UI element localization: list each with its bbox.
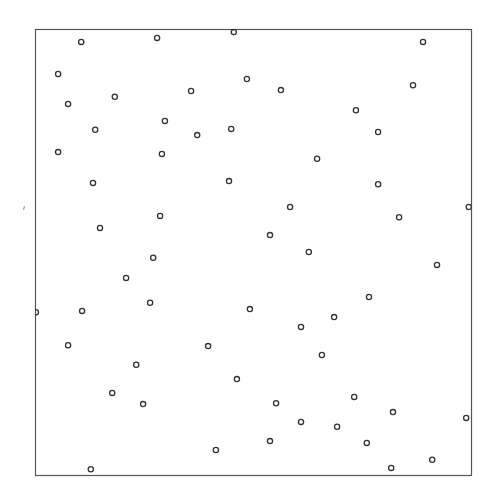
data-point — [231, 29, 236, 34]
data-point — [66, 343, 71, 348]
data-point — [158, 213, 163, 218]
data-point — [56, 71, 61, 76]
data-point — [298, 419, 303, 424]
plot-frame-border — [36, 30, 472, 476]
data-point — [97, 225, 102, 230]
data-point — [162, 118, 167, 123]
data-points — [33, 29, 471, 471]
data-point — [397, 215, 402, 220]
scatter-plot-canvas — [0, 0, 497, 502]
data-point — [464, 415, 469, 420]
data-point — [353, 108, 358, 113]
data-point — [244, 76, 249, 81]
data-point — [267, 439, 272, 444]
data-point — [389, 465, 394, 470]
data-point — [366, 294, 371, 299]
data-point — [274, 401, 279, 406]
data-point — [66, 101, 71, 106]
data-point — [376, 182, 381, 187]
data-point — [141, 402, 146, 407]
data-point — [306, 249, 311, 254]
data-point — [90, 180, 95, 185]
data-point — [151, 255, 156, 260]
data-point — [159, 151, 164, 156]
data-point — [80, 308, 85, 313]
data-point — [315, 156, 320, 161]
data-point — [332, 315, 337, 320]
data-point — [267, 233, 272, 238]
data-point — [420, 39, 425, 44]
data-point — [148, 300, 153, 305]
data-point — [124, 275, 129, 280]
data-point — [466, 204, 471, 209]
data-point — [430, 457, 435, 462]
data-point — [195, 133, 200, 138]
data-point — [229, 126, 234, 131]
data-point — [364, 440, 369, 445]
data-point — [226, 179, 231, 184]
data-point — [234, 377, 239, 382]
data-point — [278, 88, 283, 93]
data-point — [155, 35, 160, 40]
stray-mark — [24, 206, 25, 210]
data-point — [134, 362, 139, 367]
data-point — [247, 307, 252, 312]
data-point — [352, 394, 357, 399]
data-point — [434, 262, 439, 267]
data-point — [56, 150, 61, 155]
data-point — [213, 447, 218, 452]
annotations — [24, 206, 25, 210]
data-point — [298, 324, 303, 329]
data-point — [189, 88, 194, 93]
data-point — [110, 390, 115, 395]
data-point — [112, 94, 117, 99]
plot-frame — [36, 30, 472, 476]
data-point — [390, 410, 395, 415]
scatter-chart — [0, 0, 497, 502]
data-point — [319, 352, 324, 357]
data-point — [288, 204, 293, 209]
data-point — [79, 39, 84, 44]
data-point — [376, 129, 381, 134]
data-point — [206, 344, 211, 349]
data-point — [93, 127, 98, 132]
data-point — [88, 467, 93, 472]
data-point — [410, 83, 415, 88]
data-point — [335, 424, 340, 429]
